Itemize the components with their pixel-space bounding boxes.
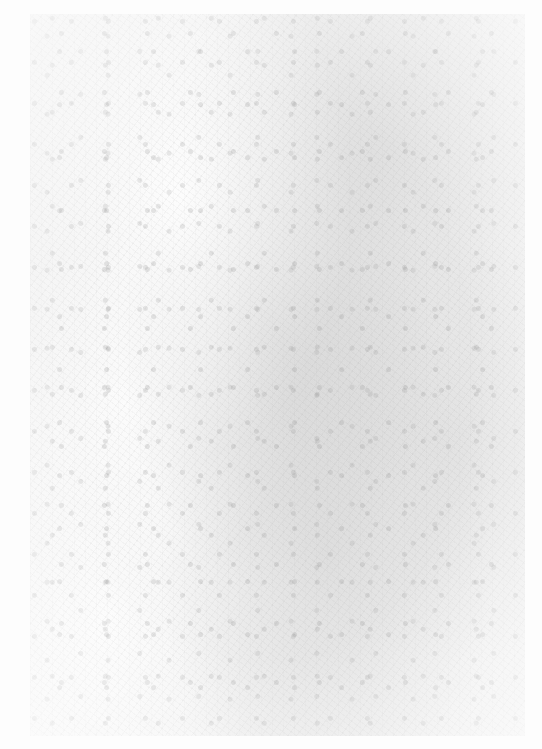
edge-fade xyxy=(30,14,525,736)
faded-plate-impression xyxy=(30,14,525,736)
scanned-page xyxy=(0,0,542,749)
